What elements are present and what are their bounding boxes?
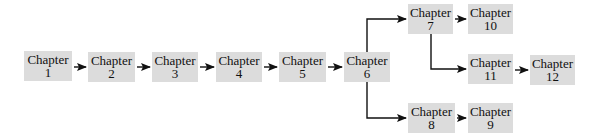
node-number: 8: [428, 118, 435, 131]
node-number: 4: [236, 67, 243, 80]
node-ch5: Chapter5: [279, 52, 326, 82]
node-number: 6: [364, 67, 371, 80]
arrow-ch7-ch11: [431, 34, 466, 69]
node-ch12: Chapter12: [530, 55, 575, 85]
node-ch8: Chapter8: [408, 103, 455, 133]
node-ch7: Chapter7: [408, 4, 453, 34]
node-number: 9: [487, 118, 494, 131]
node-ch3: Chapter3: [152, 52, 198, 82]
node-number: 12: [546, 70, 559, 83]
node-number: 11: [484, 69, 497, 82]
node-ch11: Chapter11: [468, 54, 513, 84]
node-ch4: Chapter4: [216, 52, 262, 82]
node-number: 1: [45, 66, 52, 79]
node-ch1: Chapter1: [24, 51, 72, 81]
node-ch2: Chapter2: [88, 52, 135, 82]
node-number: 2: [108, 67, 115, 80]
node-ch9: Chapter9: [468, 103, 513, 133]
arrow-ch6-ch7: [367, 19, 406, 52]
node-number: 10: [484, 19, 497, 32]
node-ch10: Chapter10: [468, 4, 513, 34]
node-number: 3: [172, 67, 179, 80]
node-number: 7: [427, 19, 434, 32]
node-number: 5: [299, 67, 306, 80]
node-ch6: Chapter6: [344, 52, 390, 82]
arrow-ch6-ch8: [367, 82, 406, 118]
